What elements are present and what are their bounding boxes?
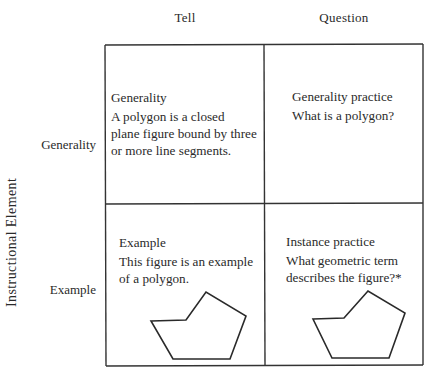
- cell-line: What geometric term: [286, 252, 422, 269]
- cell-line: or more line segments.: [111, 142, 261, 159]
- cell-line: A polygon is a closed: [111, 108, 261, 125]
- cell-line: This figure is an example: [119, 253, 264, 270]
- cell-line: of a polygon.: [119, 270, 264, 287]
- cell-example-question: Instance practice What geometric term de…: [286, 233, 422, 286]
- cell-generality-question: Generality practice What is a polygon?: [292, 88, 422, 124]
- cell-line: What is a polygon?: [292, 107, 422, 124]
- cell-example-tell: Example This figure is an example of a p…: [119, 234, 264, 287]
- grid-left-border: [105, 45, 106, 366]
- polygon-figure-instance: [313, 291, 405, 358]
- grid-top-border: [105, 44, 423, 45]
- cell-title: Example: [119, 234, 264, 251]
- grid-horizontal-divider: [105, 203, 423, 204]
- cell-line: plane figure bound by three: [111, 125, 261, 142]
- cell-line: describes the figure?*: [286, 269, 422, 286]
- grid-vertical-divider: [264, 45, 265, 366]
- cell-title: Generality practice: [292, 88, 422, 105]
- cell-title: Instance practice: [286, 233, 422, 250]
- matrix-grid: [0, 0, 434, 372]
- cell-generality-tell: Generality A polygon is a closed plane f…: [111, 89, 261, 159]
- polygon-figure-example: [151, 292, 246, 359]
- cell-title: Generality: [111, 89, 261, 106]
